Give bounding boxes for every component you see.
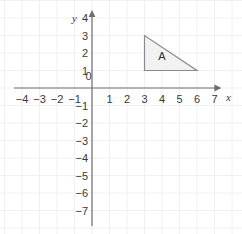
plotted-shapes (0, 0, 242, 234)
shape-label-a: A (158, 50, 165, 62)
y-axis-name: y (72, 13, 77, 24)
x-tick-label: 5 (176, 94, 182, 105)
x-tick-label: −4 (16, 94, 29, 105)
x-tick-label: 3 (141, 94, 147, 105)
y-tick-label: −6 (75, 188, 88, 199)
x-tick-label: −2 (51, 94, 64, 105)
y-tick-label: 3 (82, 30, 88, 41)
x-tick-label: 7 (211, 94, 217, 105)
y-tick-label: 2 (82, 48, 88, 59)
x-tick-label: 6 (194, 94, 200, 105)
y-tick-label: −7 (75, 205, 88, 216)
y-tick-label: −5 (75, 170, 88, 181)
y-tick-label: −3 (75, 135, 88, 146)
x-tick-label: 4 (159, 94, 165, 105)
x-tick-label: 2 (124, 94, 130, 105)
y-tick-label: 1 (82, 65, 88, 76)
x-tick-label: 1 (106, 94, 112, 105)
x-tick-label: −3 (33, 94, 46, 105)
y-tick-label: −2 (75, 118, 88, 129)
shape-a (145, 36, 198, 71)
coordinate-plane: −4−3−2−1012345674321−1−2−3−4−5−6−7 x y A (0, 0, 242, 234)
y-tick-label: −4 (75, 153, 88, 164)
y-tick-label: 4 (82, 13, 88, 24)
y-tick-label: −1 (75, 100, 88, 111)
x-axis-name: x (226, 92, 231, 103)
